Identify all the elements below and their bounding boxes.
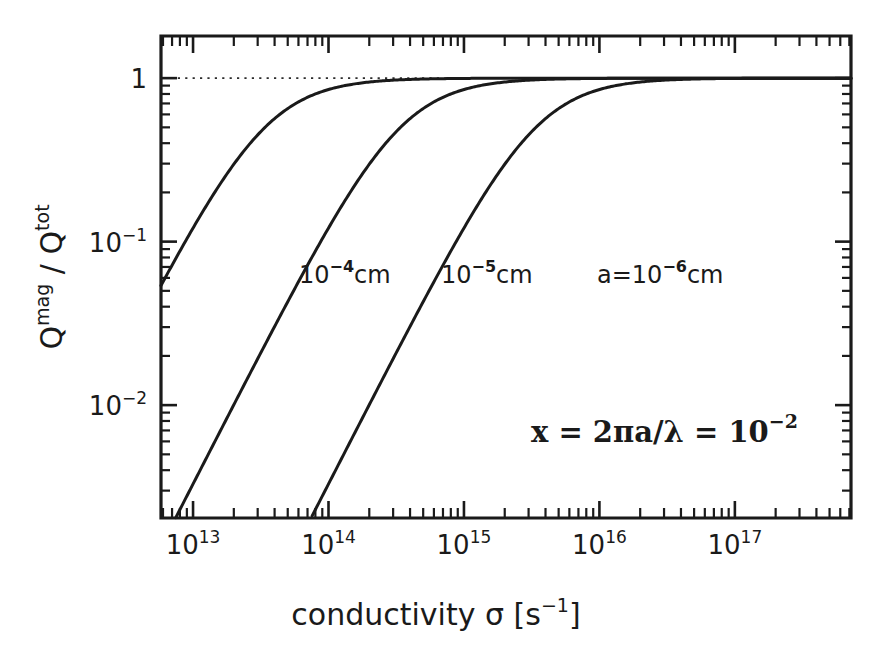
formula-annotation: x = 2πa/λ = 10−2 [531,410,798,449]
y-tick-label-0: 1 [130,64,147,94]
curve-labels: 10−4cm10−5cma=10−6cm [299,257,724,289]
label-1e-6: a=10−6cm [597,257,724,289]
x-axis-title: conductivity σ [s−1] [291,594,580,632]
figure-canvas: 10131014101510161017 110−110−2 conductiv… [0,0,890,650]
log-log-plot: 10131014101510161017 110−110−2 conductiv… [0,0,890,650]
